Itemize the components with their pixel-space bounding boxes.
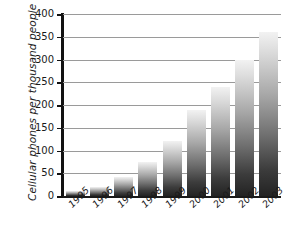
bar-2003 bbox=[259, 32, 278, 196]
plot-area bbox=[63, 14, 281, 196]
bar-2002 bbox=[235, 60, 254, 197]
y-tick-label-350: 350 bbox=[18, 32, 54, 42]
y-tick-label-250: 250 bbox=[18, 77, 54, 87]
y-tick-label-50: 50 bbox=[18, 168, 54, 178]
y-tick-label-200: 200 bbox=[18, 100, 54, 110]
y-tick-label-400: 400 bbox=[18, 9, 54, 19]
y-tick-label-150: 150 bbox=[18, 123, 54, 133]
y-tick-label-0: 0 bbox=[18, 191, 54, 201]
bar-2001 bbox=[211, 87, 230, 196]
y-tick-label-100: 100 bbox=[18, 146, 54, 156]
y-tick-label-300: 300 bbox=[18, 55, 54, 65]
bar-2000 bbox=[187, 110, 206, 196]
bar-chart-figure: Cellular phones per thousand people 0501… bbox=[0, 0, 290, 242]
gridline-400 bbox=[63, 14, 281, 15]
gridline-350 bbox=[63, 37, 281, 38]
